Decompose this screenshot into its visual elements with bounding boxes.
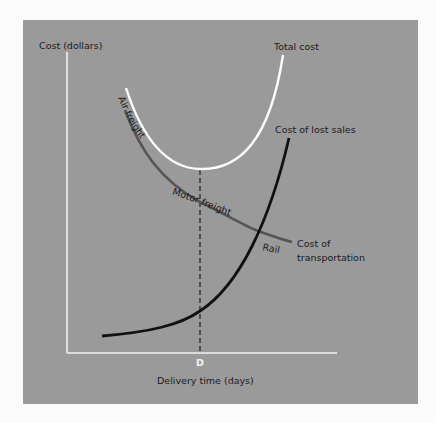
- lost-sales-label: Cost of lost sales: [275, 124, 356, 135]
- y-axis-label: Cost (dollars): [39, 40, 102, 51]
- total-cost-label: Total cost: [273, 41, 319, 52]
- chart-svg: Cost (dollars) Total cost Cost of lost s…: [0, 0, 436, 423]
- rail-label: Rail: [262, 241, 281, 255]
- motor-freight-label: Motor freight: [171, 185, 233, 217]
- x-axis-label: Delivery time (days): [157, 375, 254, 386]
- transportation-curve: [125, 110, 292, 242]
- transport-label-line2: transportation: [297, 252, 365, 263]
- total-cost-curve: [126, 55, 283, 169]
- transport-label-line1: Cost of: [297, 238, 331, 249]
- air-freight-label: Air freight: [116, 95, 148, 141]
- x-tick-d: D: [196, 357, 204, 368]
